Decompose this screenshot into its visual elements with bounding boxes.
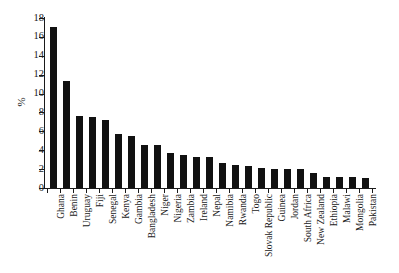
x-axis-tick — [294, 189, 295, 193]
x-axis-tick — [320, 189, 321, 193]
x-axis-tick — [281, 189, 282, 193]
x-axis-category-label: Togo — [252, 194, 262, 213]
x-axis-tick — [372, 189, 373, 193]
x-axis-category-label: Nepal — [213, 194, 223, 217]
x-axis-category-label: Namibia — [226, 194, 236, 227]
x-axis-category-label: Niger — [161, 194, 171, 216]
x-axis-tick — [333, 189, 334, 193]
x-axis-tick — [190, 189, 191, 193]
x-axis-category-label: Mongolia — [356, 194, 366, 231]
x-axis-category-label: Ethiopia — [330, 194, 340, 226]
x-axis-category-label: Nigeria — [174, 194, 184, 223]
x-axis-category-label: New Zealand — [317, 194, 327, 245]
x-axis-category-label: Zambia — [187, 194, 197, 223]
x-axis-tick — [268, 189, 269, 193]
x-axis-tick — [86, 189, 87, 193]
x-axis-category-label: Kenya — [122, 194, 132, 219]
x-axis-category-label: Uruguay — [83, 194, 93, 227]
x-axis-tick — [73, 189, 74, 193]
x-axis-tick — [346, 189, 347, 193]
x-axis-category-label: Guinea — [278, 194, 288, 221]
x-axis-category-label: Ghana — [57, 194, 67, 219]
x-axis-tick — [255, 189, 256, 193]
bar-chart: % 024681012141618 GhanaBeninUruguayFijiS… — [0, 0, 399, 273]
x-axis-category-label: South Africa — [304, 194, 314, 242]
x-axis-tick — [47, 189, 48, 193]
x-axis-category-label: Bangladesh — [148, 194, 158, 238]
x-axis-category-label: Ireland — [200, 194, 210, 221]
x-axis-category-label: Pakistan — [369, 194, 379, 226]
x-axis-category-label: Gambia — [135, 194, 145, 224]
x-axis-tick — [151, 189, 152, 193]
x-axis-tick — [229, 189, 230, 193]
x-axis-tick — [138, 189, 139, 193]
x-axis-category-layer: GhanaBeninUruguayFijiSenegalKenyaGambiaB… — [0, 0, 399, 273]
x-axis-category-label: Jordan — [291, 194, 301, 219]
x-axis-tick — [177, 189, 178, 193]
x-axis-tick — [216, 189, 217, 193]
x-axis-tick — [125, 189, 126, 193]
x-axis-category-label: Rwanda — [239, 194, 249, 225]
x-axis-tick — [112, 189, 113, 193]
x-axis-category-label: Fiji — [96, 194, 106, 207]
x-axis-category-label: Malawi — [343, 194, 353, 223]
x-axis-tick — [307, 189, 308, 193]
x-axis-tick — [60, 189, 61, 193]
x-axis-tick — [99, 189, 100, 193]
x-axis-tick — [203, 189, 204, 193]
x-axis-tick — [164, 189, 165, 193]
x-axis-tick — [359, 189, 360, 193]
x-axis-category-label: Slovak Republic — [265, 194, 275, 257]
x-axis-category-label: Senegal — [109, 194, 119, 224]
x-axis-category-label: Benin — [70, 194, 80, 217]
x-axis-tick — [242, 189, 243, 193]
